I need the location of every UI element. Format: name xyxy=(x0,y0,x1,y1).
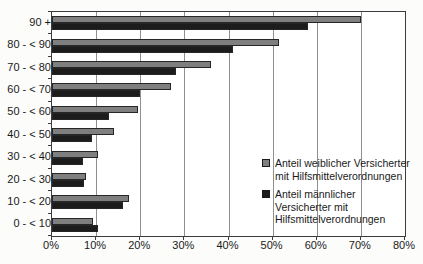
x-tick-label: 80% xyxy=(384,240,423,251)
bar-weiblich-7 xyxy=(52,173,86,180)
x-tick-label: 40% xyxy=(208,240,248,251)
y-axis-tick xyxy=(48,213,52,214)
y-axis-tick xyxy=(48,123,52,124)
bar-weiblich-0 xyxy=(52,16,361,23)
y-axis-tick xyxy=(48,190,52,191)
legend-item-maennlich: Anteil männlicher Versicherter mit Hilfs… xyxy=(262,188,412,226)
x-axis-tick xyxy=(139,236,140,240)
y-tick-label: 90 + xyxy=(0,17,51,28)
bar-maennlich-2 xyxy=(52,68,176,75)
x-axis-tick xyxy=(51,236,52,240)
x-tick-label: 20% xyxy=(119,240,159,251)
y-axis-tick xyxy=(48,33,52,34)
bar-weiblich-1 xyxy=(52,39,279,46)
y-axis-tick xyxy=(48,101,52,102)
bar-weiblich-5 xyxy=(52,128,114,135)
y-tick-label: 30 - < 40 xyxy=(0,151,51,162)
x-tick-label: 30% xyxy=(163,240,203,251)
y-tick-label: 40 - < 50 xyxy=(0,129,51,140)
legend-label: Anteil männlicher Versicherter mit Hilfs… xyxy=(275,188,385,225)
x-tick-label: 50% xyxy=(252,240,292,251)
y-tick-label: 20 - < 30 xyxy=(0,174,51,185)
bar-maennlich-3 xyxy=(52,90,140,97)
y-axis-tick xyxy=(48,78,52,79)
y-tick-label: 60 - < 70 xyxy=(0,84,51,95)
bar-maennlich-8 xyxy=(52,202,123,209)
bar-weiblich-4 xyxy=(52,106,138,113)
x-axis-tick xyxy=(183,236,184,240)
x-axis-tick xyxy=(228,236,229,240)
x-axis-tick xyxy=(95,236,96,240)
y-tick-label: 50 - < 60 xyxy=(0,106,51,117)
y-axis-tick xyxy=(48,145,52,146)
y-tick-label: 80 - < 90 xyxy=(0,39,51,50)
bar-weiblich-2 xyxy=(52,61,211,68)
bar-weiblich-3 xyxy=(52,83,171,90)
x-tick-label: 0% xyxy=(31,240,71,251)
bar-maennlich-7 xyxy=(52,180,84,187)
bar-maennlich-6 xyxy=(52,158,83,165)
bar-maennlich-4 xyxy=(52,113,109,120)
bar-maennlich-5 xyxy=(52,135,92,142)
legend-item-weiblich: Anteil weiblicher Versicherter mit Hilfs… xyxy=(262,157,412,182)
legend-label: Anteil weiblicher Versicherter mit Hilfs… xyxy=(275,157,410,182)
bar-weiblich-8 xyxy=(52,195,129,202)
x-axis-tick xyxy=(316,236,317,240)
y-axis-tick xyxy=(48,11,52,12)
bar-weiblich-6 xyxy=(52,151,98,158)
x-axis-tick xyxy=(360,236,361,240)
x-tick-label: 10% xyxy=(75,240,115,251)
y-axis-tick xyxy=(48,168,52,169)
y-tick-label: 0 - < 10 xyxy=(0,218,51,229)
legend-swatch-icon xyxy=(262,159,270,167)
legend-swatch-icon xyxy=(262,190,270,198)
bar-maennlich-9 xyxy=(52,225,98,232)
bar-chart-figure: 90 +80 - < 9070 - < 8060 - < 7050 - < 60… xyxy=(0,0,423,264)
x-axis-tick xyxy=(272,236,273,240)
x-axis-tick xyxy=(404,236,405,240)
y-axis-tick xyxy=(48,56,52,57)
legend: Anteil weiblicher Versicherter mit Hilfs… xyxy=(262,157,412,232)
y-tick-label: 10 - < 20 xyxy=(0,196,51,207)
bar-weiblich-9 xyxy=(52,218,93,225)
x-tick-label: 70% xyxy=(340,240,380,251)
bar-maennlich-1 xyxy=(52,46,233,53)
bar-maennlich-0 xyxy=(52,23,308,30)
y-tick-label: 70 - < 80 xyxy=(0,62,51,73)
x-tick-label: 60% xyxy=(296,240,336,251)
